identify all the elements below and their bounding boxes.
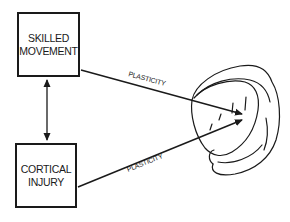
cortical-injury-line-1: CORTICAL [21, 163, 72, 176]
cortical-injury-box: CORTICAL INJURY [15, 143, 77, 208]
plasticity-label-bottom: PLASTICITY [126, 152, 164, 173]
brain-icon [192, 65, 280, 175]
skilled-movement-box: SKILLED MOVEMENT [17, 12, 80, 77]
cortical-injury-line-2: INJURY [28, 176, 64, 189]
skilled-movement-line-1: SKILLED [28, 32, 69, 45]
skilled-movement-line-2: MOVEMENT [19, 45, 77, 58]
plasticity-arrow-top [81, 70, 242, 114]
